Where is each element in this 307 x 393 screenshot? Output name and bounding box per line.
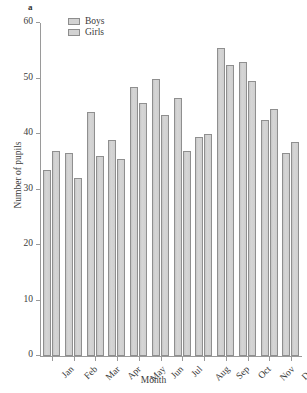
bar-group [239, 23, 257, 356]
bar-group [65, 23, 83, 356]
bar-girls [248, 81, 256, 356]
y-axis-label: Number of pupils [13, 110, 23, 240]
x-axis-tick [74, 357, 75, 361]
bar-boys [195, 137, 203, 356]
y-axis-tick-label: 60 [24, 16, 34, 26]
x-axis-line [40, 356, 302, 357]
y-axis-tick: 60 [36, 22, 40, 23]
bar-group [261, 23, 279, 356]
bar-boys [217, 48, 225, 356]
y-axis-tick-label: 0 [28, 349, 33, 359]
bar-girls [161, 115, 169, 356]
y-axis-tick-label: 30 [24, 183, 34, 193]
y-axis-tick-label: 20 [24, 238, 34, 248]
x-axis-tick [52, 357, 53, 361]
bar-boys [152, 79, 160, 357]
bar-girls [96, 156, 104, 356]
bar-group [152, 23, 170, 356]
x-axis-tick [291, 357, 292, 361]
plot-area: 0102030405060 JanFebMarAprMayJunJulAugSe… [40, 23, 302, 357]
y-axis-tick-label: 50 [24, 72, 34, 82]
bar-boys [108, 140, 116, 356]
x-axis-tick [117, 357, 118, 361]
bar-group [195, 23, 213, 356]
bar-girls [52, 151, 60, 356]
x-axis-tick [269, 357, 270, 361]
bar-girls [226, 65, 234, 356]
bar-boys [65, 153, 73, 356]
bar-group [108, 23, 126, 356]
x-axis-tick [226, 357, 227, 361]
x-axis-tick [182, 357, 183, 361]
bar-boys [261, 120, 269, 356]
panel-label: a [28, 2, 33, 12]
bar-boys [87, 112, 95, 356]
bar-boys [43, 170, 51, 356]
x-axis-tick [139, 357, 140, 361]
y-axis-tick: 20 [36, 244, 40, 245]
bar-girls [117, 159, 125, 356]
bar-group [43, 23, 61, 356]
x-axis-tick [204, 357, 205, 361]
y-axis-tick: 30 [36, 189, 40, 190]
bar-girls [74, 178, 82, 356]
x-axis-label: Month [0, 375, 307, 385]
bar-group [282, 23, 300, 356]
bar-girls [139, 103, 147, 356]
y-axis-tick: 10 [36, 300, 40, 301]
y-axis-tick-label: 10 [24, 294, 34, 304]
bar-girls [270, 109, 278, 356]
bar-group [87, 23, 105, 356]
x-axis-tick [95, 357, 96, 361]
bar-boys [239, 62, 247, 356]
bar-girls [183, 151, 191, 356]
bar-series-container [41, 23, 302, 356]
bar-girls [204, 134, 212, 356]
bar-boys [282, 153, 290, 356]
bar-girls [291, 142, 299, 356]
bar-group [174, 23, 192, 356]
bar-boys [174, 98, 182, 356]
figure-panel: a Boys Girls Number of pupils 0102030405… [0, 0, 307, 393]
bar-boys [130, 87, 138, 356]
bar-group [217, 23, 235, 356]
y-axis-tick-label: 40 [24, 127, 34, 137]
bar-group [130, 23, 148, 356]
y-axis-tick: 50 [36, 78, 40, 79]
x-axis-tick [248, 357, 249, 361]
x-axis-tick [161, 357, 162, 361]
y-axis-tick: 40 [36, 133, 40, 134]
y-axis-tick: 0 [36, 355, 40, 356]
